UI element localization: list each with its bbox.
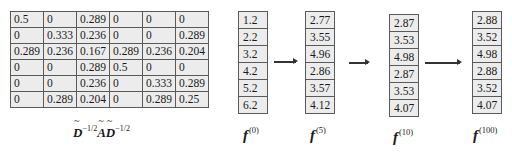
vector-f0: 1.2 2.2 3.2 4.2 5.2 6.2 <box>238 11 268 114</box>
matrix-cell: 0.236 <box>77 76 110 92</box>
matrix-cell: 0 <box>176 60 209 76</box>
matrix-row: 0 0 0.289 0.5 0 0 <box>11 60 209 76</box>
vector-cell: 5.2 <box>239 80 268 97</box>
matrix-cell: 0 <box>110 92 143 108</box>
matrix-cell: 0 <box>176 12 209 28</box>
matrix-cell: 0.204 <box>176 44 209 60</box>
vector-label-f10: f(10) <box>393 127 413 146</box>
vector-cell: 4.2 <box>239 63 268 80</box>
matrix-row: 0 0.289 0.204 0 0.289 0.25 <box>11 92 209 108</box>
matrix-cell: 0 <box>44 12 77 28</box>
matrix-cell: 0.289 <box>77 12 110 28</box>
right-arrow-icon <box>349 62 368 64</box>
matrix-cell: 0.236 <box>143 44 176 60</box>
vector-cell: 4.98 <box>390 49 419 66</box>
vector-cell: 3.53 <box>390 32 419 49</box>
matrix-cell: 0 <box>11 76 44 92</box>
d-tilde: D <box>73 125 82 141</box>
matrix-cell: 0.167 <box>77 44 110 60</box>
vector-label-f100: f(100) <box>473 125 497 144</box>
normalized-adjacency-matrix: 0.5 0 0.289 0 0 0 0 0.333 0.236 0 0 0.28… <box>10 11 209 108</box>
matrix-cell: 0.236 <box>44 44 77 60</box>
vector-f100: 2.88 3.52 4.98 2.88 3.52 4.07 <box>472 11 502 114</box>
matrix-cell: 0.236 <box>77 28 110 44</box>
right-arrow-icon <box>425 62 460 64</box>
matrix-cell: 0 <box>110 28 143 44</box>
matrix-cell: 0 <box>11 92 44 108</box>
a-tilde: A <box>97 125 106 141</box>
vector-cell: 1.2 <box>239 12 268 29</box>
vector-label-f0: f(0) <box>243 125 259 144</box>
matrix-row: 0.5 0 0.289 0 0 0 <box>11 12 209 28</box>
matrix-cell: 0.289 <box>176 76 209 92</box>
matrix-cell: 0.289 <box>44 92 77 108</box>
vector-cell: 3.52 <box>473 80 502 97</box>
vector-cell: 2.87 <box>390 66 419 83</box>
vector-cell: 3.55 <box>306 29 335 46</box>
matrix-cell: 0 <box>143 12 176 28</box>
matrix-cell: 0 <box>44 60 77 76</box>
vector-cell: 4.98 <box>473 46 502 63</box>
vector-cell: 2.88 <box>473 63 502 80</box>
matrix-cell: 0.289 <box>176 28 209 44</box>
vector-cell: 3.53 <box>390 83 419 100</box>
vector-cell: 4.12 <box>306 97 335 114</box>
vector-cell: 3.57 <box>306 80 335 97</box>
matrix-row: 0 0 0.236 0 0.333 0.289 <box>11 76 209 92</box>
matrix-cell: 0 <box>143 28 176 44</box>
matrix-cell: 0.333 <box>143 76 176 92</box>
vector-cell: 3.52 <box>473 29 502 46</box>
matrix-row: 0 0.333 0.236 0 0 0.289 <box>11 28 209 44</box>
matrix-cell: 0.5 <box>11 12 44 28</box>
matrix-cell: 0 <box>11 28 44 44</box>
vector-f10: 2.87 3.53 4.98 2.87 3.53 4.07 <box>389 14 419 117</box>
matrix-cell: 0 <box>44 76 77 92</box>
vector-cell: 2.2 <box>239 29 268 46</box>
matrix-cell: 0 <box>143 60 176 76</box>
vector-cell: 3.2 <box>239 46 268 63</box>
matrix-cell: 0.204 <box>77 92 110 108</box>
matrix-row: 0.289 0.236 0.167 0.289 0.236 0.204 <box>11 44 209 60</box>
vector-cell: 2.87 <box>390 15 419 32</box>
matrix-cell: 0.333 <box>44 28 77 44</box>
right-arrow-icon <box>274 61 296 63</box>
matrix-cell: 0.289 <box>11 44 44 60</box>
vector-cell: 6.2 <box>239 97 268 114</box>
vector-cell: 4.96 <box>306 46 335 63</box>
matrix-cell: 0 <box>11 60 44 76</box>
vector-f5: 2.77 3.55 4.96 2.86 3.57 4.12 <box>305 11 335 114</box>
exponent: −1/2 <box>115 124 130 133</box>
vector-cell: 4.07 <box>473 97 502 114</box>
matrix-cell: 0.289 <box>110 44 143 60</box>
matrix-cell: 0 <box>110 12 143 28</box>
d-tilde: D <box>106 125 115 141</box>
matrix-formula-label: D−1/2AD−1/2 <box>73 124 130 141</box>
vector-cell: 4.07 <box>390 100 419 117</box>
vector-cell: 2.77 <box>306 12 335 29</box>
vector-cell: 2.88 <box>473 12 502 29</box>
matrix-cell: 0.289 <box>77 60 110 76</box>
matrix-cell: 0.289 <box>143 92 176 108</box>
vector-label-f5: f(5) <box>310 125 326 144</box>
exponent: −1/2 <box>82 124 97 133</box>
matrix-cell: 0.5 <box>110 60 143 76</box>
matrix-cell: 0.25 <box>176 92 209 108</box>
vector-cell: 2.86 <box>306 63 335 80</box>
matrix-cell: 0 <box>110 76 143 92</box>
